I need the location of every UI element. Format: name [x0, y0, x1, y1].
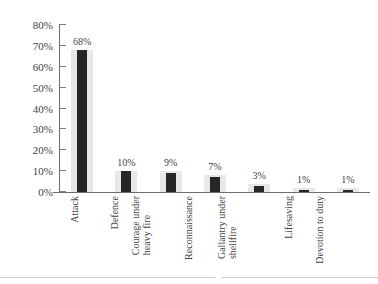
plot-area: 68%10%9%7%3%1%1% — [60, 25, 370, 192]
footer-divider-left — [0, 277, 215, 278]
bar-value-label: 1% — [341, 174, 354, 185]
bar-value-label: 10% — [117, 157, 135, 168]
x-axis-label: Reconnaissance — [183, 196, 194, 260]
bar-group[interactable]: 3% — [237, 25, 281, 192]
bar-chart: 80%70%60%50%40%30%20%10%0% 68%10%9%7%3%1… — [0, 0, 378, 284]
x-axis-label-slot: Devotion to duty — [326, 194, 370, 282]
bar-group[interactable]: 10% — [104, 25, 148, 192]
x-axis-label-line: Defence — [110, 196, 121, 229]
x-axis-label: Devotion to duty — [314, 196, 325, 264]
y-axis-tick: 0% — [0, 186, 66, 198]
bar-group[interactable]: 1% — [281, 25, 325, 192]
y-axis-tick-label: 80% — [33, 19, 53, 31]
x-axis-label-line: Gallantry under — [217, 196, 228, 259]
y-axis-tick: 80% — [0, 19, 66, 31]
x-axis-label: Courage underheavy fire — [130, 196, 152, 255]
y-axis-tick-label: 60% — [33, 61, 53, 73]
bar-value-label: 1% — [297, 174, 310, 185]
x-axis-label: Gallantry undershellfire — [217, 196, 239, 259]
x-axis-label-line: Devotion to duty — [314, 196, 325, 264]
y-axis-tick: 60% — [0, 61, 66, 73]
bar-group[interactable]: 7% — [193, 25, 237, 192]
y-axis-tick: 70% — [0, 40, 66, 52]
x-axis-line — [53, 192, 370, 193]
bar-value-label: 7% — [208, 161, 221, 172]
x-axis-label-slot: Attack — [60, 194, 104, 282]
x-axis-label-line: Reconnaissance — [183, 196, 194, 260]
y-axis-tick-label: 40% — [33, 103, 53, 115]
y-axis-tick-label: 20% — [33, 144, 53, 156]
x-axis-label: Attack — [69, 196, 80, 223]
y-axis-tick: 30% — [0, 123, 66, 135]
bar-value-label: 3% — [253, 170, 266, 181]
x-axis-label-line: heavy fire — [141, 196, 152, 255]
y-axis-tick: 10% — [0, 165, 66, 177]
bar-group[interactable]: 9% — [149, 25, 193, 192]
y-axis-tick-label: 70% — [33, 40, 53, 52]
bar-group[interactable]: 68% — [60, 25, 104, 192]
bar[interactable] — [343, 190, 353, 192]
x-axis-label-line: Attack — [69, 196, 80, 223]
bar[interactable] — [254, 186, 264, 192]
bar-value-label: 9% — [164, 157, 177, 168]
x-axis-label-line: Courage under — [130, 196, 141, 255]
y-axis-tick: 50% — [0, 82, 66, 94]
bar[interactable] — [166, 173, 176, 192]
bar-group[interactable]: 1% — [326, 25, 370, 192]
y-axis-tick: 20% — [0, 144, 66, 156]
bar-value-label: 68% — [73, 36, 91, 47]
bar[interactable] — [210, 177, 220, 192]
x-axis-label: Lifesaving — [282, 196, 293, 239]
y-axis-tick: 40% — [0, 103, 66, 115]
y-axis-tick-label: 0% — [38, 186, 53, 198]
y-axis-tick-label: 30% — [33, 123, 53, 135]
y-axis-tick-label: 50% — [33, 82, 53, 94]
bar[interactable] — [77, 50, 87, 192]
x-axis-label-line: shellfire — [228, 196, 239, 259]
y-axis-tick-label: 10% — [33, 165, 53, 177]
bar[interactable] — [121, 171, 131, 192]
x-axis-label: Defence — [110, 196, 121, 229]
footer-divider-right — [222, 277, 378, 278]
x-axis-label-slot: Gallantry undershellfire — [237, 194, 281, 282]
x-axis-label-line: Lifesaving — [282, 196, 293, 239]
bar[interactable] — [299, 190, 309, 192]
x-axis-category-labels: AttackDefenceCourage underheavy fireReco… — [60, 194, 370, 282]
